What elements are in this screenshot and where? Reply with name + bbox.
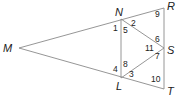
vertex-label-t: T xyxy=(167,85,175,97)
segments xyxy=(19,8,164,89)
angle-label-7: 7 xyxy=(155,51,160,61)
angle-label-8: 8 xyxy=(123,59,128,69)
angle-label-1: 1 xyxy=(113,23,118,33)
segment-mr xyxy=(19,8,164,48)
angle-label-2: 2 xyxy=(131,18,136,28)
vertex-label-s: S xyxy=(167,44,175,56)
angle-label-3: 3 xyxy=(129,69,134,79)
vertex-label-m: M xyxy=(3,42,13,54)
angle-label-5: 5 xyxy=(123,25,128,35)
angle-label-9: 9 xyxy=(155,9,160,19)
angle-label-6: 6 xyxy=(155,34,160,44)
segment-mt xyxy=(19,48,164,89)
angle-label-4: 4 xyxy=(113,64,118,74)
vertex-label-l: L xyxy=(116,80,122,92)
angle-label-10: 10 xyxy=(151,74,161,84)
vertex-label-r: R xyxy=(167,0,175,12)
angle-label-11: 11 xyxy=(145,43,154,53)
vertex-label-n: N xyxy=(115,6,123,18)
geometry-diagram: MNRSLT 1259611784310 xyxy=(0,0,185,102)
